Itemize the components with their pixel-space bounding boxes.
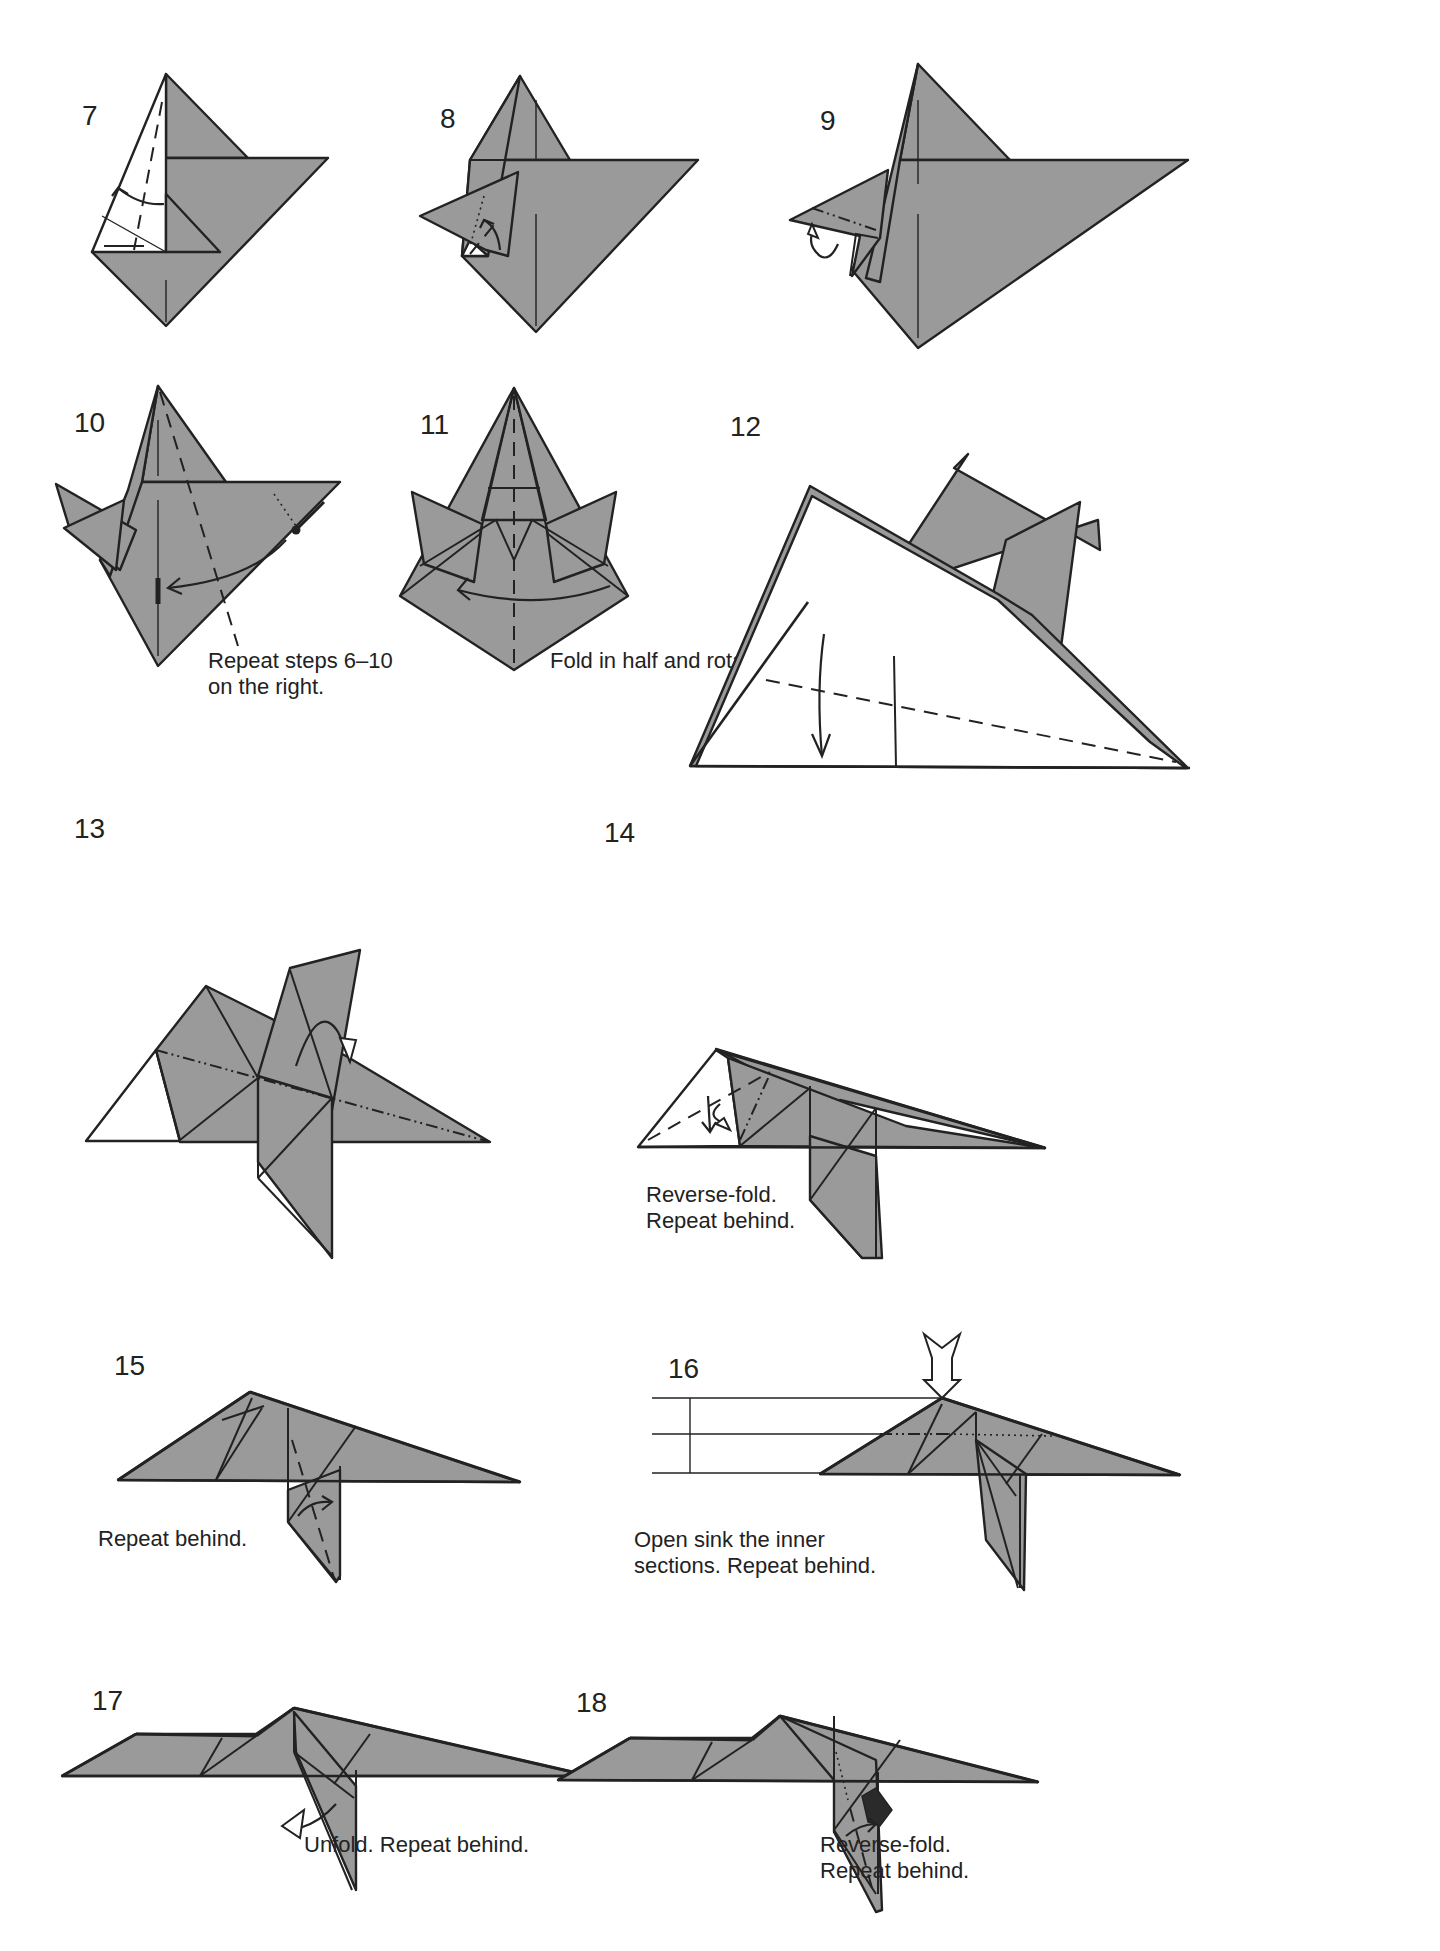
step-caption-line: Reverse-fold. <box>820 1832 951 1857</box>
step-15-diagram: 15 Repeat behind. <box>98 1350 520 1582</box>
step-16-diagram: 16 Open sink the inner sections. Repeat … <box>634 1334 1180 1590</box>
step-number: 12 <box>730 411 761 442</box>
step-14-diagram: 14 Reverse-fold. Repeat behind. <box>604 817 1045 1258</box>
step-number: 17 <box>92 1685 123 1716</box>
step-12-diagram: 12 <box>690 411 1190 768</box>
step-number: 10 <box>74 407 105 438</box>
step-7-diagram: 7 <box>82 74 328 326</box>
step-caption-line: Open sink the inner <box>634 1527 825 1552</box>
step-17-diagram: 17 Unfold. Repeat behind. <box>62 1685 590 1890</box>
step-number: 7 <box>82 100 98 131</box>
step-number: 11 <box>420 409 449 440</box>
step-number: 8 <box>440 103 456 134</box>
step-caption-line: on the right. <box>208 674 324 699</box>
step-number: 16 <box>668 1353 699 1384</box>
step-caption-line: sections. Repeat behind. <box>634 1553 876 1578</box>
step-number: 18 <box>576 1687 607 1718</box>
step-13-diagram: 13 <box>74 813 490 1258</box>
step-8-diagram: 8 <box>420 76 698 332</box>
step-caption-line: Repeat behind. <box>646 1208 795 1233</box>
step-10-diagram: 10 Repeat steps 6–10 on the right. <box>56 386 393 699</box>
step-caption-line: Repeat behind. <box>98 1526 247 1551</box>
step-caption-line: Repeat behind. <box>820 1858 969 1883</box>
step-number: 9 <box>820 105 836 136</box>
step-number: 13 <box>74 813 105 844</box>
step-9-diagram: 9 <box>790 64 1188 348</box>
step-caption-line: Repeat steps 6–10 <box>208 648 393 673</box>
step-number: 15 <box>114 1350 145 1381</box>
step-11-diagram: 11 Fold in half and rotate. <box>400 388 769 673</box>
step-caption-line: Reverse-fold. <box>646 1182 777 1207</box>
step-number: 14 <box>604 817 635 848</box>
diagram-canvas: 7 8 9 <box>0 0 1440 1951</box>
step-18-diagram: 18 Reverse-fold. Repeat behind. <box>558 1687 1038 1912</box>
step-caption-line: Unfold. Repeat behind. <box>304 1832 529 1857</box>
